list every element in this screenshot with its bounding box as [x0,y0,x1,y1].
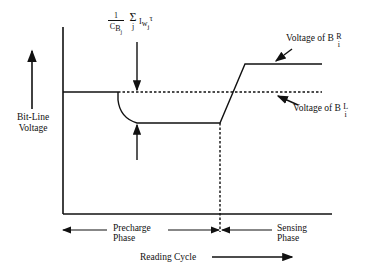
current-subsub: j [147,23,149,31]
left-label-sub: i [345,111,347,119]
y-axis-label-line2: Voltage [17,123,49,134]
right-label-pointer [276,49,292,61]
bitline-voltage-diagram: 1 CBj Σ j Iwjτ Bit-Line Voltage Voltage … [0,0,370,276]
left-label-text: Voltage of B [293,103,341,113]
current-term: Iwjτ [139,17,153,26]
sum-index: j [132,23,134,31]
right-label-text: Voltage of B [286,33,334,43]
left-bitline-label: Voltage of B L i [293,103,348,119]
fraction: 1 CBj [108,12,124,31]
right-bitline-voltage [118,64,322,123]
summation: Σ j [130,12,137,31]
left-label-indices: L i [343,103,348,119]
right-label-indices: R i [336,33,341,49]
x-axis-label: Reading Cycle [140,252,196,263]
sensing-line2: Phase [277,233,307,243]
cap-sub: B [115,24,120,33]
y-axis-label: Bit-Line Voltage [17,112,49,134]
denominator: CBj [110,23,122,31]
numerator: 1 [108,12,124,21]
sensing-phase-label: Sensing Phase [277,223,307,243]
y-axis-label-line1: Bit-Line [17,112,49,123]
precharge-line2: Phase [113,233,151,243]
cap-subsub: j [121,29,123,35]
precharge-phase-label: Precharge Phase [113,223,151,243]
voltage-drop-formula: 1 CBj Σ j Iwjτ [108,12,153,31]
sensing-line1: Sensing [277,223,307,233]
right-label-sub: i [338,41,340,49]
right-bitline-label: Voltage of B R i [286,33,342,49]
precharge-line1: Precharge [113,223,151,233]
tau-symbol: τ [149,14,152,23]
